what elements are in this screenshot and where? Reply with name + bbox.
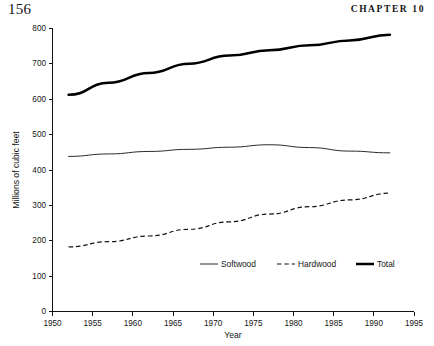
- x-tick-label: 1970: [204, 319, 223, 328]
- y-tick-label: 0: [41, 307, 46, 316]
- legend-label-hardwood: Hardwood: [298, 259, 337, 269]
- legend-label-total: Total: [377, 259, 395, 269]
- series-line-hardwood: [69, 193, 390, 247]
- legend-label-softwood: Softwood: [221, 259, 256, 269]
- y-tick-label: 100: [32, 272, 46, 281]
- x-axis-ticks: 1950195519601965197019751980198519901995: [43, 312, 423, 329]
- data-series-group: [69, 35, 390, 247]
- x-tick-label: 1965: [164, 319, 183, 328]
- y-axis: 0100200300400500600700800 Millions of cu…: [11, 24, 53, 316]
- y-axis-ticks: 0100200300400500600700800: [32, 24, 52, 316]
- x-tick-label: 1985: [325, 319, 344, 328]
- x-tick-label: 1975: [244, 319, 263, 328]
- line-chart-figure: 0100200300400500600700800 Millions of cu…: [0, 0, 434, 346]
- x-tick-label: 1950: [43, 319, 62, 328]
- y-tick-label: 700: [32, 59, 46, 68]
- chart-canvas: 0100200300400500600700800 Millions of cu…: [0, 0, 434, 346]
- y-axis-title: Millions of cubic feet: [11, 131, 21, 209]
- x-axis: 1950195519601965197019751980198519901995…: [43, 312, 423, 341]
- y-tick-label: 800: [32, 24, 46, 33]
- y-tick-label: 500: [32, 130, 46, 139]
- series-line-softwood: [69, 145, 390, 157]
- y-tick-label: 600: [32, 95, 46, 104]
- x-tick-label: 1960: [124, 319, 143, 328]
- y-tick-label: 200: [32, 236, 46, 245]
- chart-legend: SoftwoodHardwoodTotal: [200, 259, 395, 269]
- x-tick-label: 1980: [284, 319, 303, 328]
- series-line-total: [69, 35, 390, 95]
- x-tick-label: 1955: [84, 319, 103, 328]
- x-tick-label: 1990: [365, 319, 384, 328]
- x-axis-title: Year: [224, 330, 242, 340]
- y-tick-label: 300: [32, 201, 46, 210]
- x-tick-label: 1995: [405, 319, 424, 328]
- y-tick-label: 400: [32, 166, 46, 175]
